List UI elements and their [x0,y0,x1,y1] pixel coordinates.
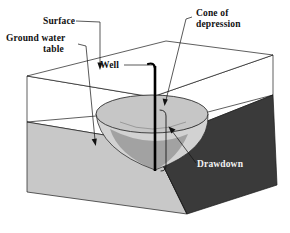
label-ground-water-table-line2: table [43,44,64,54]
figure-container: Surface Ground water table Well Cone of … [0,0,290,233]
label-ground-water-table-line1: Ground water [6,33,66,43]
cone-top-ellipse-water-surface [96,95,208,133]
label-drawdown: Drawdown [197,159,244,169]
label-cone-line1: Cone of [196,8,229,18]
cone-of-depression-diagram: Surface Ground water table Well Cone of … [0,0,290,233]
label-surface: Surface [43,16,75,26]
label-well: Well [100,60,119,70]
surface-leader-line [76,21,100,64]
label-cone-line2: depression [196,19,241,29]
